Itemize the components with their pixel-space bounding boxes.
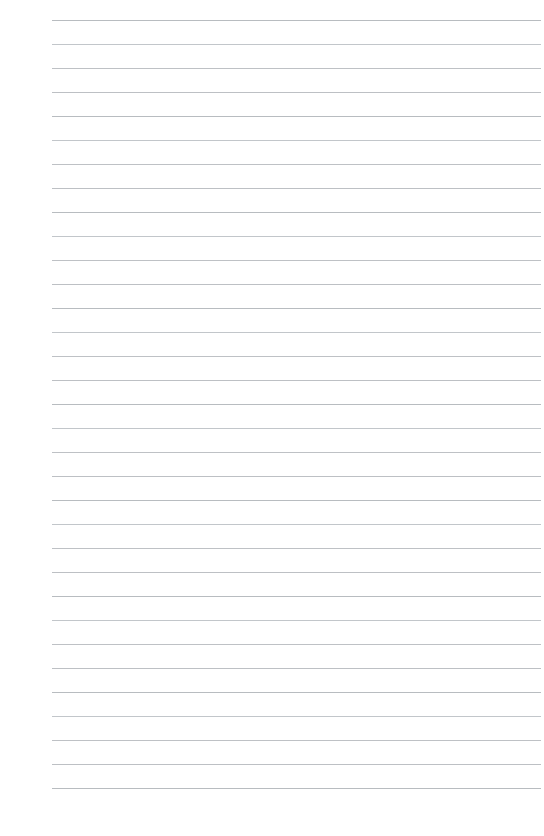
rule-line <box>52 332 541 333</box>
rule-line <box>52 284 541 285</box>
rule-line <box>52 212 541 213</box>
rule-line <box>52 788 541 789</box>
notebook-page <box>0 0 544 836</box>
rule-line <box>52 524 541 525</box>
rule-line <box>52 596 541 597</box>
rule-line <box>52 644 541 645</box>
rule-line <box>52 764 541 765</box>
rule-line <box>52 452 541 453</box>
rule-line <box>52 692 541 693</box>
rule-line <box>52 404 541 405</box>
rule-line <box>52 188 541 189</box>
rule-line <box>52 140 541 141</box>
rule-line <box>52 92 541 93</box>
rule-line <box>52 548 541 549</box>
rule-line <box>52 68 541 69</box>
rule-line <box>52 116 541 117</box>
rule-line <box>52 260 541 261</box>
rule-line <box>52 380 541 381</box>
ruled-lines-layer <box>0 0 544 836</box>
rule-line <box>52 740 541 741</box>
rule-line <box>52 428 541 429</box>
rule-line <box>52 668 541 669</box>
rule-line <box>52 308 541 309</box>
rule-line <box>52 572 541 573</box>
rule-line <box>52 620 541 621</box>
rule-line <box>52 164 541 165</box>
rule-line <box>52 716 541 717</box>
rule-line <box>52 20 541 21</box>
rule-line <box>52 356 541 357</box>
rule-line <box>52 236 541 237</box>
rule-line <box>52 44 541 45</box>
rule-line <box>52 500 541 501</box>
rule-line <box>52 476 541 477</box>
